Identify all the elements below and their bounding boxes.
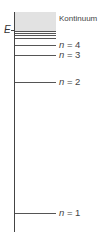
- energy-level-n1: [15, 213, 56, 214]
- energy-level-high: [15, 33, 56, 34]
- continuum-label: Kontinuum: [59, 14, 97, 23]
- energy-level-high: [15, 35, 56, 36]
- energy-axis-label: E: [4, 24, 11, 35]
- energy-level-n3: [15, 55, 56, 56]
- energy-level-n2: [15, 82, 56, 83]
- energy-level-n4: [15, 45, 56, 46]
- level-label-n3: n = 3: [59, 50, 80, 60]
- level-label-n1: n = 1: [59, 208, 80, 218]
- continuum-region: [14, 12, 56, 32]
- energy-level-n5: [15, 38, 56, 39]
- energy-level-high: [15, 31, 56, 32]
- level-label-n2: n = 2: [59, 77, 80, 87]
